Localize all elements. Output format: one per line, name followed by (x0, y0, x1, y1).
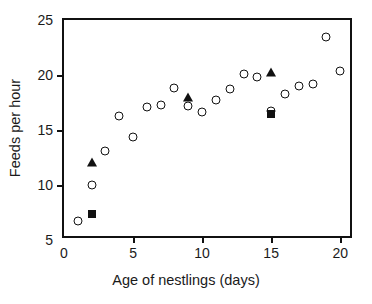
y-tick-mark (57, 75, 64, 77)
data-points-layer (64, 20, 350, 236)
y-tick-mark (57, 185, 64, 187)
data-point-open-circle (142, 102, 151, 111)
x-tick-mark (133, 236, 135, 243)
data-point-open-circle (73, 217, 82, 226)
x-tick-label: 10 (194, 246, 210, 260)
data-point-open-circle (308, 79, 317, 88)
data-point-open-circle (322, 32, 331, 41)
x-tick-mark (271, 236, 273, 243)
data-point-open-circle (336, 66, 345, 75)
x-tick-label: 5 (129, 246, 137, 260)
x-tick-label: 0 (60, 246, 68, 260)
y-tick-label: 5 (45, 233, 53, 247)
y-tick-label: 20 (37, 68, 53, 82)
data-point-open-circle (184, 101, 193, 110)
data-point-open-circle (156, 100, 165, 109)
x-tick-mark (202, 236, 204, 243)
data-point-open-circle (101, 146, 110, 155)
data-point-open-circle (170, 84, 179, 93)
data-point-open-circle (280, 89, 289, 98)
data-point-open-circle (253, 73, 262, 82)
y-tick-mark (57, 130, 64, 132)
data-point-open-circle (239, 69, 248, 78)
data-point-open-circle (87, 181, 96, 190)
data-point-open-circle (211, 96, 220, 105)
y-tick-label: 15 (37, 123, 53, 137)
data-point-filled-triangle (183, 93, 193, 102)
plot-area: 510152025 05101520 (62, 18, 352, 238)
x-axis-title: Age of nestlings (days) (0, 272, 372, 288)
data-point-open-circle (115, 111, 124, 120)
data-point-filled-triangle (87, 157, 97, 166)
x-tick-mark (340, 236, 342, 243)
data-point-open-circle (198, 108, 207, 117)
y-tick-label: 10 (37, 178, 53, 192)
data-point-filled-square (267, 110, 275, 118)
data-point-open-circle (294, 82, 303, 91)
x-tick-label: 15 (263, 246, 279, 260)
x-tick-label: 20 (332, 246, 348, 260)
data-point-filled-triangle (266, 67, 276, 76)
y-axis-title: Feeds per hour (7, 48, 23, 208)
data-point-open-circle (225, 85, 234, 94)
data-point-open-circle (129, 132, 138, 141)
data-point-filled-square (88, 210, 96, 218)
y-tick-label: 25 (37, 13, 53, 27)
scatter-chart-figure: 510152025 05101520 Age of nestlings (day… (0, 0, 372, 304)
